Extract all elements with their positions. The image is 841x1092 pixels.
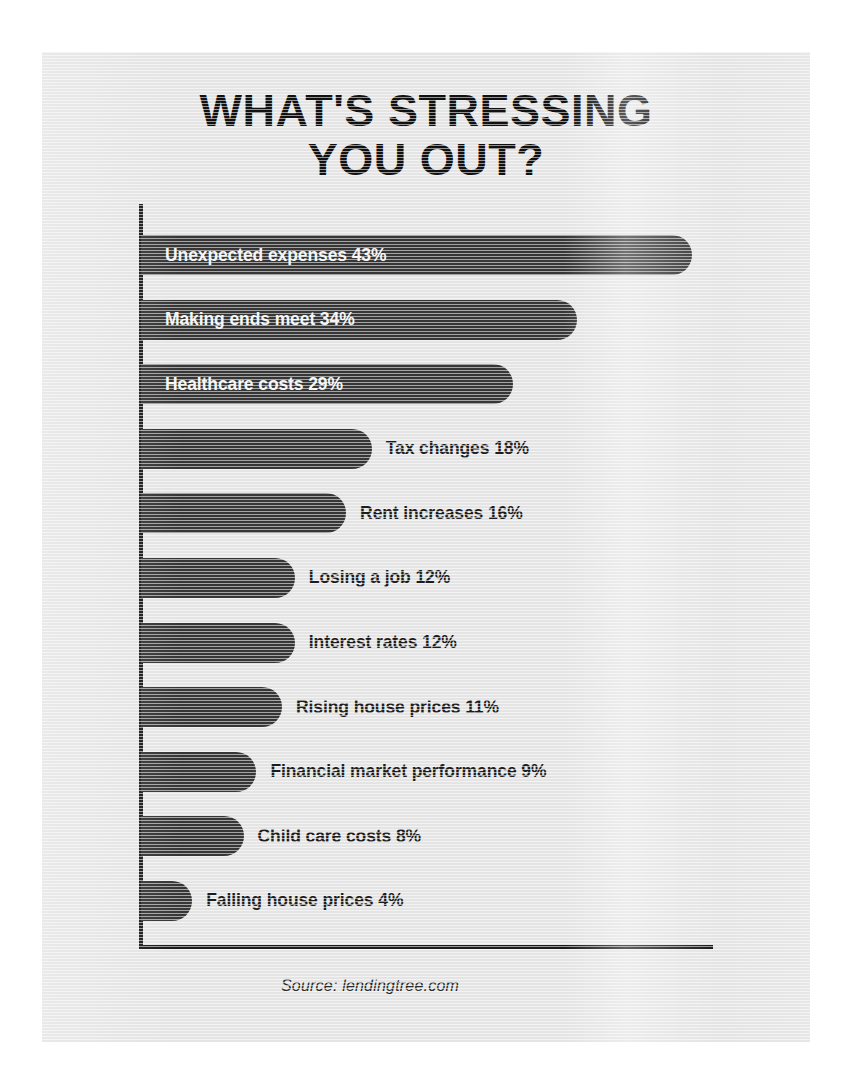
bar-row: Healthcare costs 29% bbox=[141, 364, 741, 404]
bar-row: Child care costs 8% bbox=[141, 816, 741, 856]
bar-category-label: Financial market performance bbox=[270, 761, 516, 781]
bar-fill bbox=[141, 816, 244, 856]
bar-label: Healthcare costs 29% bbox=[165, 374, 343, 395]
bar-value-label: 16% bbox=[483, 503, 523, 523]
bar-fill bbox=[141, 881, 192, 921]
bar-category-label: Tax changes bbox=[386, 438, 490, 458]
bar-label: Tax changes 18% bbox=[386, 438, 529, 459]
bar-category-label: Interest rates bbox=[309, 632, 418, 652]
bar-list: Unexpected expenses 43%Making ends meet … bbox=[141, 235, 741, 946]
bar-category-label: Healthcare costs bbox=[165, 374, 303, 394]
bar-row: Rent increases 16% bbox=[141, 493, 741, 533]
bar-fill bbox=[141, 493, 346, 533]
x-axis-line bbox=[139, 945, 713, 949]
bar-row: Falling house prices 4% bbox=[141, 881, 741, 921]
bar-label: Unexpected expenses 43% bbox=[165, 245, 386, 266]
bar-value-label: 9% bbox=[517, 761, 547, 781]
bar-category-label: Falling house prices bbox=[206, 890, 373, 910]
bar-value-label: 8% bbox=[391, 826, 421, 846]
bar-value-label: 18% bbox=[489, 438, 529, 458]
bar-chart: Unexpected expenses 43%Making ends meet … bbox=[139, 204, 754, 949]
page-title-line-1: WHAT'S STRESSING bbox=[42, 87, 810, 136]
source-attribution: Source: lendingtree.com bbox=[42, 977, 698, 995]
bar-row: Rising house prices 11% bbox=[141, 687, 741, 727]
bar-label: Making ends meet 34% bbox=[165, 309, 355, 330]
bar-category-label: Child care costs bbox=[258, 826, 392, 846]
bar-value-label: 12% bbox=[411, 567, 451, 587]
bar-value-label: 43% bbox=[347, 245, 387, 265]
bar-value-label: 29% bbox=[303, 374, 343, 394]
bar-category-label: Unexpected expenses bbox=[165, 245, 347, 265]
bar-value-label: 12% bbox=[417, 632, 457, 652]
bar-fill bbox=[141, 752, 256, 792]
bar-value-label: 4% bbox=[373, 890, 403, 910]
bar-fill bbox=[141, 429, 372, 469]
bar-category-label: Losing a job bbox=[309, 567, 411, 587]
bar-fill bbox=[141, 623, 295, 663]
bar-row: Making ends meet 34% bbox=[141, 300, 741, 340]
bar-label: Financial market performance 9% bbox=[270, 761, 546, 782]
bar-fill bbox=[141, 687, 282, 727]
bar-label: Losing a job 12% bbox=[309, 567, 450, 588]
bar-category-label: Making ends meet bbox=[165, 309, 315, 329]
bar-value-label: 34% bbox=[315, 309, 355, 329]
page-title-line-2: YOU OUT? bbox=[42, 136, 810, 185]
bar-row: Interest rates 12% bbox=[141, 623, 741, 663]
bar-label: Child care costs 8% bbox=[258, 826, 421, 847]
bar-label: Falling house prices 4% bbox=[206, 890, 403, 911]
bar-category-label: Rent increases bbox=[360, 503, 483, 523]
bar-label: Rising house prices 11% bbox=[296, 697, 499, 718]
bar-fill bbox=[141, 558, 295, 598]
infographic-panel: WHAT'S STRESSING YOU OUT? Unexpected exp… bbox=[42, 52, 810, 1042]
bar-row: Losing a job 12% bbox=[141, 558, 741, 598]
bar-label: Interest rates 12% bbox=[309, 632, 457, 653]
bar-row: Tax changes 18% bbox=[141, 429, 741, 469]
bar-row: Unexpected expenses 43% bbox=[141, 235, 741, 275]
bar-value-label: 11% bbox=[460, 697, 499, 717]
bar-category-label: Rising house prices bbox=[296, 697, 460, 717]
bar-label: Rent increases 16% bbox=[360, 503, 523, 524]
page-title: WHAT'S STRESSING YOU OUT? bbox=[42, 87, 810, 184]
bar-row: Financial market performance 9% bbox=[141, 752, 741, 792]
